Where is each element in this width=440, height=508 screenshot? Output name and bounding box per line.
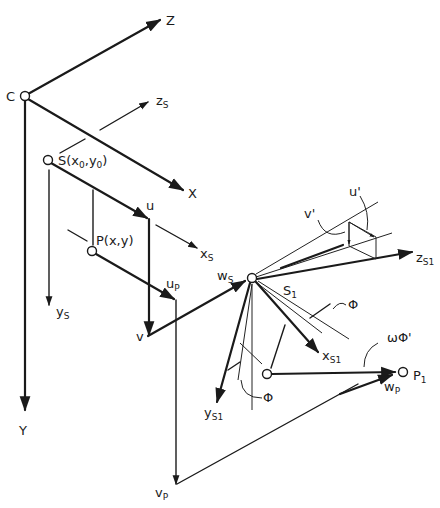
label-u: u — [146, 198, 154, 213]
label-p: P(x,y) — [96, 233, 134, 248]
axis-zs1 — [257, 252, 412, 279]
vector-ws — [148, 281, 245, 336]
label-v: v — [136, 329, 144, 344]
label-zs1: zS1 — [416, 250, 434, 267]
v-prime-arc — [318, 220, 345, 234]
label-z: Z — [166, 13, 175, 28]
frustum-box — [349, 222, 376, 259]
label-phi-upper: Φ — [348, 297, 358, 312]
point-q — [263, 370, 272, 379]
frustum-mid-edge — [256, 233, 392, 277]
axis-zs — [100, 102, 148, 130]
q-tick — [271, 325, 285, 368]
label-p1: P1 — [413, 368, 427, 385]
vector-u — [51, 163, 147, 218]
label-omega-phi-prime: ωΦ' — [387, 330, 412, 345]
frustum-upper-edge — [256, 202, 378, 274]
label-c: C — [6, 89, 15, 104]
point-c — [21, 92, 30, 101]
label-xs1: xS1 — [322, 348, 341, 365]
point-s — [44, 156, 53, 165]
omega-phi-arc — [364, 343, 378, 367]
phi-tick-lower — [228, 362, 240, 370]
label-u-prime: u' — [349, 184, 361, 199]
label-ys1: yS1 — [204, 405, 223, 422]
vector-up — [96, 254, 174, 299]
coordinate-diagram: C Z X Y zS xS yS S(x0,y0) P(x,y) u v uP … — [0, 0, 440, 508]
p-horizontal-tick — [68, 230, 87, 241]
s1-frustum — [256, 196, 412, 279]
label-s1: S1 — [283, 283, 297, 300]
u-prime-arrow — [349, 222, 374, 237]
label-x: X — [188, 186, 197, 201]
axis-ys1 — [217, 283, 250, 402]
axis-x — [28, 99, 183, 190]
label-phi-lower: Φ — [263, 390, 273, 405]
phi-tick-upper — [310, 304, 330, 318]
phi-upper-arc — [333, 303, 346, 309]
label-up: uP — [166, 276, 180, 293]
u-prime-arc — [360, 196, 368, 230]
label-wp: wP — [384, 379, 401, 396]
axis-xs — [156, 225, 197, 248]
xs1-ray-outer — [258, 281, 349, 339]
axis-zs-back — [60, 139, 85, 153]
lower-ray-to-q — [240, 343, 262, 364]
axis-z — [28, 20, 160, 94]
camera-s-axes — [49, 102, 197, 305]
label-xs: xS — [200, 246, 214, 263]
label-ys: yS — [56, 304, 70, 321]
label-vp: vP — [155, 485, 169, 502]
point-s1 — [248, 274, 257, 283]
s1-axes — [217, 281, 395, 410]
label-s: S(x0,y0) — [58, 153, 107, 170]
label-ws: wS — [217, 268, 234, 285]
label-y: Y — [18, 423, 27, 438]
label-zs: zS — [156, 93, 169, 110]
ray-q-p1 — [272, 372, 395, 374]
label-v-prime: v' — [304, 206, 315, 221]
point-p1 — [399, 368, 408, 377]
